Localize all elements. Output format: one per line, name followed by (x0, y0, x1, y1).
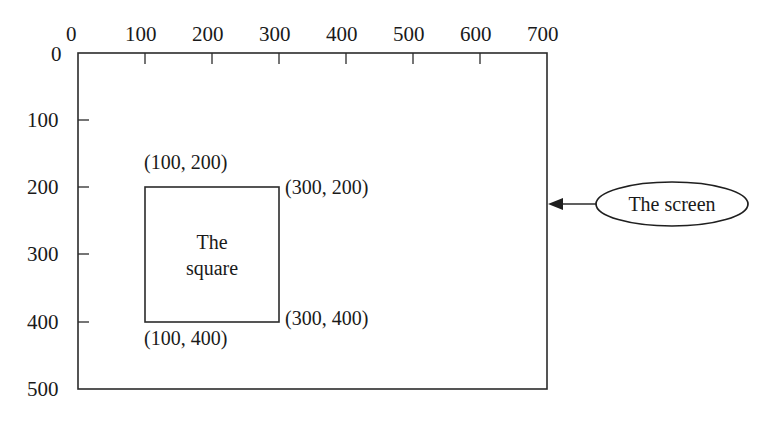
square-corner-label-bottom-left: (100, 400) (144, 328, 227, 348)
x-tick-label-700: 700 (527, 24, 559, 45)
square-corner-label-bottom-right: (300, 400) (285, 308, 368, 328)
x-tick-label-0: 0 (66, 24, 77, 45)
x-tick-label-100: 100 (125, 24, 157, 45)
y-tick-label-0: 0 (51, 44, 62, 65)
y-tick-label-200: 200 (27, 177, 59, 198)
square-inner-label: The square (145, 230, 279, 281)
callout-arrowhead-icon (548, 198, 563, 210)
x-tick-label-400: 400 (326, 24, 358, 45)
y-tick-label-100: 100 (27, 110, 59, 131)
x-tick-label-200: 200 (192, 24, 224, 45)
x-tick-label-600: 600 (460, 24, 492, 45)
y-tick-label-500: 500 (27, 379, 59, 400)
y-axis-ticks (78, 120, 89, 322)
x-tick-label-300: 300 (259, 24, 291, 45)
square-corner-label-top-right: (300, 200) (285, 177, 368, 197)
square-inner-label-line2: square (145, 256, 279, 282)
x-tick-label-500: 500 (393, 24, 425, 45)
callout-label: The screen (596, 194, 748, 214)
y-tick-label-300: 300 (27, 244, 59, 265)
square-corner-label-top-left: (100, 200) (144, 152, 227, 172)
square-inner-label-line1: The (145, 230, 279, 256)
y-tick-label-400: 400 (27, 312, 59, 333)
x-axis-ticks (145, 53, 480, 64)
coordinate-system-diagram: 0 100 200 300 400 500 600 700 0 100 200 … (0, 0, 765, 426)
